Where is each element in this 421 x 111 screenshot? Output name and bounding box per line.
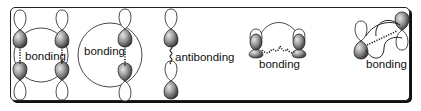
p-orbital-icon (354, 21, 368, 59)
p-orbital-icon (13, 62, 27, 100)
bonding-interaction-line (280, 46, 287, 51)
p-orbital-icon (118, 9, 132, 47)
p-orbital-icon (395, 12, 409, 50)
antibonding-label: antibonding (175, 51, 234, 63)
panel-4: bonding (354, 12, 409, 70)
curved-arrow-icon (366, 48, 384, 58)
bonding-label: bonding (259, 58, 300, 70)
bonding-interaction-line (273, 46, 280, 51)
orbital-diagram: bonding bonding antibonding (0, 0, 421, 111)
p-orbital-icon (164, 9, 178, 47)
panel-1: bonding (13, 10, 69, 100)
shaded-lobe-icon (250, 34, 262, 50)
p-orbital-icon (13, 10, 27, 48)
bonding-label: bonding (366, 58, 407, 70)
panel-2: bonding antibonding (78, 9, 234, 101)
shaded-lobe-icon (293, 34, 305, 50)
panel-3: bonding (249, 23, 306, 71)
bonding-interaction-line (262, 49, 272, 53)
curved-arrow-icon (366, 23, 400, 36)
p-orbital-icon (55, 62, 69, 100)
p-orbital-icon (118, 63, 132, 101)
bonding-label: bonding (84, 45, 125, 57)
p-orbital-icon (164, 61, 178, 99)
p-orbital-icon (55, 10, 69, 48)
bonding-label: bonding (25, 50, 66, 62)
